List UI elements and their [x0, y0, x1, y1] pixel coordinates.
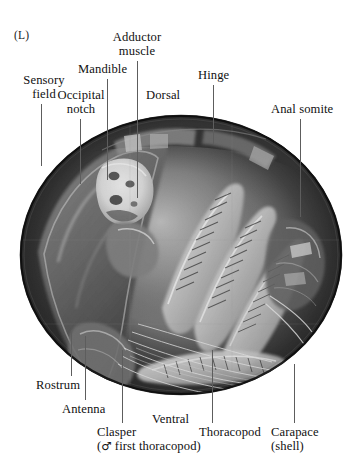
label-mandible: Mandible [78, 62, 127, 76]
leader-hinge [213, 85, 214, 144]
label-occipital-notch-line1: Occipital [50, 88, 112, 102]
label-ventral: Ventral [152, 412, 189, 426]
label-antenna: Antenna [62, 402, 105, 416]
label-anal-somite: Anal somite [271, 102, 333, 116]
label-clasper: Clasper (♂ first thoracopod) [97, 425, 201, 454]
label-occipital-notch-line2: notch [50, 102, 112, 116]
leader-mandible [107, 79, 108, 180]
label-clasper-line1: Clasper [97, 425, 201, 439]
leader-sensory-field [41, 104, 42, 166]
sem-micrograph-image [18, 112, 348, 402]
label-sensory-field-line1: Sensory [18, 73, 70, 87]
leader-clasper [122, 350, 123, 423]
anatomical-figure-panel: (L) Sensory field Occipital notch Mandib… [0, 0, 364, 475]
label-hinge: Hinge [198, 68, 229, 82]
label-occipital-notch: Occipital notch [50, 88, 112, 117]
leader-adductor-muscle [137, 61, 138, 198]
leader-occipital-notch [80, 119, 81, 184]
label-adductor-muscle-line1: Adductor [103, 30, 171, 44]
leader-antenna [85, 336, 86, 400]
label-carapace-line2: (shell) [271, 439, 319, 453]
label-carapace-line1: Carapace [271, 425, 319, 439]
leader-carapace [294, 364, 295, 423]
panel-letter: (L) [14, 29, 29, 41]
label-thoracopod: Thoracopod [199, 425, 261, 439]
leader-thoracopod [212, 350, 213, 423]
label-adductor-muscle: Adductor muscle [103, 30, 171, 59]
label-clasper-line2-rest: first thoracopod) [112, 439, 201, 453]
label-carapace: Carapace (shell) [271, 425, 319, 454]
leader-anal-somite [300, 119, 301, 217]
male-symbol-icon: ♂ [101, 439, 111, 453]
leader-rostrum [71, 330, 72, 376]
label-rostrum: Rostrum [36, 378, 80, 392]
label-adductor-muscle-line2: muscle [103, 44, 171, 58]
label-dorsal: Dorsal [146, 88, 180, 102]
label-clasper-line2: (♂ first thoracopod) [97, 439, 201, 453]
